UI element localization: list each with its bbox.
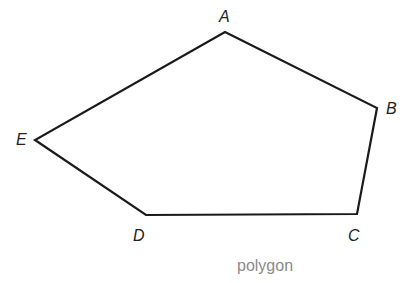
polygon-diagram: A B C D E polygon: [0, 0, 403, 283]
vertex-label-d: D: [133, 228, 145, 244]
polygon-shape: [0, 0, 403, 283]
vertex-label-e: E: [16, 132, 27, 148]
diagram-caption: polygon: [237, 258, 293, 274]
vertex-label-a: A: [219, 9, 230, 25]
vertex-label-c: C: [348, 228, 360, 244]
vertex-label-b: B: [386, 101, 397, 117]
